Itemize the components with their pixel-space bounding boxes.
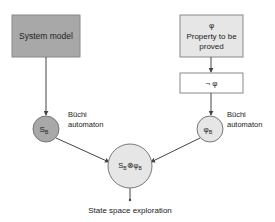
- system-buchi-node: SB Büchi automaton: [33, 110, 103, 142]
- negation-box: ¬ φ: [180, 73, 243, 93]
- system-buchi-caption1: Büchi: [68, 110, 87, 119]
- product-node: SB⊗φB: [108, 144, 152, 188]
- negation-label: ¬ φ: [205, 79, 217, 88]
- state-space-exploration-label: State space exploration: [88, 206, 172, 215]
- property-box: φ Property to be proved: [180, 15, 243, 57]
- property-line2: proved: [199, 42, 223, 51]
- system-model-label: System model: [19, 31, 73, 41]
- property-buchi-node: φB Büchi automaton: [197, 110, 262, 142]
- system-buchi-sub: B: [45, 129, 49, 135]
- property-buchi-caption2: automaton: [227, 120, 262, 129]
- arrow-phib-to-product: [151, 138, 200, 162]
- property-buchi-sub: B: [209, 129, 213, 135]
- product-op: ⊗: [127, 161, 134, 170]
- property-symbol: φ: [209, 21, 214, 30]
- system-buchi-caption2: automaton: [68, 120, 103, 129]
- property-buchi-caption1: Büchi: [227, 110, 246, 119]
- arrow-end-dot: [129, 199, 131, 201]
- model-checking-diagram: System model φ Property to be proved ¬ φ…: [0, 0, 275, 222]
- property-line1: Property to be: [186, 32, 237, 41]
- arrow-sb-to-product: [56, 138, 109, 162]
- system-model-box: System model: [12, 15, 80, 57]
